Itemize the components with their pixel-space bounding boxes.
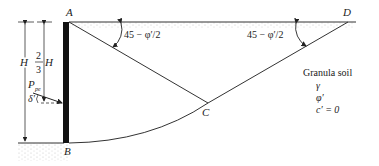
force-subscript: pe [34,86,41,92]
retaining-wall [63,22,69,143]
point-B-label: B [64,145,71,157]
point-C-label: C [202,106,210,118]
soil-phi: φ′ [316,92,325,103]
delta-label: δ′ [28,93,36,104]
two-thirds-H-label: H [44,56,54,68]
passive-earth-pressure-diagram: A B C D 45 − φ′/2 45 − φ′/2 H 2 3 H P pe… [0,0,379,166]
fraction-num: 2 [36,50,41,61]
point-D-label: D [342,6,351,18]
force-label: P [27,78,35,90]
ground-surface-texture [69,22,354,28]
base-soil-texture [18,143,68,161]
angle-left-label: 45 − φ′/2 [124,29,160,40]
fraction-den: 3 [36,64,41,75]
angle-right-label: 45 − φ′/2 [247,29,283,40]
delta-arc [37,95,39,103]
soil-gamma: γ [316,80,321,91]
soil-cohesion: c′ = 0 [316,104,339,115]
point-A-label: A [65,6,73,18]
curve-BC [69,103,208,143]
soil-title: Granula soil [303,67,352,78]
height-label: H [19,56,29,68]
